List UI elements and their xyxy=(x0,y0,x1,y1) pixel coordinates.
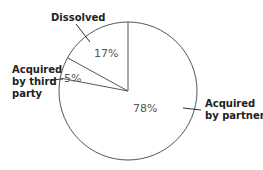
third-party-label-line1: Acquired xyxy=(12,64,62,75)
partner-percent: 78% xyxy=(133,102,157,115)
third-party-percent: 5% xyxy=(64,72,81,85)
dissolved-label: Dissolved xyxy=(51,12,105,23)
third-party-label-line3: party xyxy=(12,88,43,99)
third-party-label-line2: by third xyxy=(12,76,57,87)
partner-label-line1: Acquired xyxy=(205,98,255,109)
partner-label-line2: by partner xyxy=(205,110,263,121)
dissolved-percent: 17% xyxy=(94,47,118,60)
pie-chart: 17% 5% 78% Dissolved Acquired by third p… xyxy=(0,0,263,170)
